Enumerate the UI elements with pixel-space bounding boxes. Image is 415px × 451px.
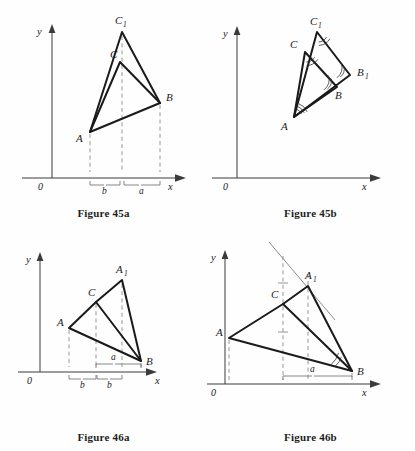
vertex-label-b: B — [146, 355, 153, 367]
y-axis-arrowhead — [37, 252, 44, 261]
vertex-label-a1-base: A — [304, 269, 312, 281]
brace-a — [96, 364, 141, 368]
measure-label-a: a — [310, 364, 315, 374]
figure-46a-drawing: y x 0 A 1 C A B a b — [0, 226, 207, 422]
y-axis-arrowhead — [222, 250, 229, 259]
y-axis-label: y — [36, 26, 42, 37]
vertex-label-c: C — [110, 48, 118, 60]
vertex-label-a: A — [215, 326, 223, 338]
vertex-label-a1: A 1 — [115, 263, 128, 278]
x-axis-label: x — [361, 181, 367, 192]
brace-b-right — [97, 375, 122, 379]
quad-a-c-a1-b — [229, 286, 352, 371]
figure-46a: y x 0 A 1 C A B a b — [0, 226, 207, 451]
vertex-label-c1: C 1 — [310, 15, 322, 30]
construction-line — [269, 242, 335, 320]
x-axis-label: x — [167, 181, 173, 192]
x-axis-label: x — [154, 375, 160, 386]
figure-45a-drawing: y x 0 C 1 C B A b a — [0, 0, 207, 196]
figure-46b: y x 0 A 1 — [207, 226, 414, 451]
x-axis-arrowhead — [370, 174, 381, 182]
vertex-label-b1-base: B — [357, 66, 364, 78]
triangle-a-c1-b — [90, 32, 160, 132]
figure-45b-drawing: y x 0 — [207, 0, 414, 196]
vertex-label-a: A — [75, 132, 83, 144]
figure-45a-caption: Figure 45a — [0, 207, 207, 219]
y-axis-arrowhead — [49, 24, 56, 33]
origin-label: 0 — [38, 181, 43, 192]
y-axis-label: y — [222, 28, 228, 39]
figure-45b: y x 0 — [207, 0, 414, 225]
vertex-label-a1-sub: 1 — [124, 269, 128, 278]
vertex-label-c: C — [271, 288, 279, 300]
figure-46a-caption: Figure 46a — [0, 431, 207, 443]
vertex-label-c1-sub: 1 — [123, 20, 127, 29]
vertex-label-a1-sub: 1 — [313, 275, 317, 284]
vertex-label-b1: B 1 — [357, 66, 369, 81]
figure-46b-drawing: y x 0 A 1 — [207, 226, 414, 422]
vertex-label-b: B — [335, 89, 342, 101]
x-axis-arrowhead — [370, 380, 381, 388]
figure-45a: y x 0 C 1 C B A b a Figure 45a — [0, 0, 207, 225]
y-axis-arrowhead — [234, 26, 241, 35]
vertex-label-b1-sub: 1 — [365, 72, 369, 81]
measure-label-a: a — [111, 352, 116, 362]
vertex-label-c1-sub: 1 — [318, 21, 322, 30]
origin-label: 0 — [223, 181, 228, 192]
brace-a — [124, 181, 160, 185]
vertex-label-c1: C 1 — [115, 14, 127, 29]
vertex-label-a: A — [280, 120, 288, 132]
measure-label-b-left: b — [80, 380, 85, 390]
measure-label-b-right: b — [107, 380, 112, 390]
quad-a-c-a1-b — [69, 280, 141, 361]
origin-label: 0 — [211, 387, 216, 398]
figure-sheet: y x 0 C 1 C B A b a Figure 45a — [0, 0, 415, 451]
vertex-label-a1-base: A — [115, 263, 123, 275]
vertex-label-a1: A 1 — [304, 269, 317, 284]
brace-a — [283, 376, 352, 380]
vertex-label-c: C — [88, 286, 96, 298]
brace-b — [90, 181, 120, 185]
brace-b-left — [69, 375, 96, 379]
vertex-label-c1-base: C — [115, 14, 123, 26]
x-axis-label: x — [361, 387, 367, 398]
measure-label-a: a — [139, 186, 144, 196]
origin-label: 0 — [27, 375, 32, 386]
x-axis-arrowhead — [175, 174, 186, 182]
vertex-label-c1-base: C — [310, 15, 318, 27]
measure-label-b: b — [102, 186, 107, 196]
figure-46b-caption: Figure 46b — [207, 431, 414, 443]
vertex-label-a: A — [56, 316, 64, 328]
y-axis-label: y — [210, 252, 216, 263]
vertex-label-b: B — [166, 91, 173, 103]
figure-45b-caption: Figure 45b — [207, 207, 414, 219]
y-axis-label: y — [25, 254, 31, 265]
vertex-label-c: C — [290, 38, 298, 50]
vertex-label-b: B — [357, 365, 364, 377]
